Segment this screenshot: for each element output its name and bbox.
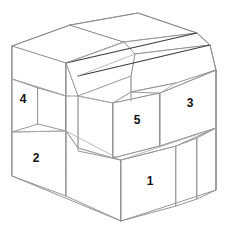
- block-label-3: 3: [187, 96, 194, 110]
- block-label-5: 5: [134, 113, 141, 127]
- block-label-1: 1: [147, 174, 154, 188]
- block-label-4: 4: [20, 92, 27, 106]
- lower-right-face-end: [197, 128, 216, 199]
- lower-right-face-mid: [176, 138, 197, 206]
- front-face-upper-column-right: [78, 96, 113, 158]
- figure-canvas: 1 2 3 4 5: [0, 0, 229, 228]
- block-label-2: 2: [33, 151, 40, 165]
- block-stack-diagram: 1 2 3 4 5: [0, 0, 229, 228]
